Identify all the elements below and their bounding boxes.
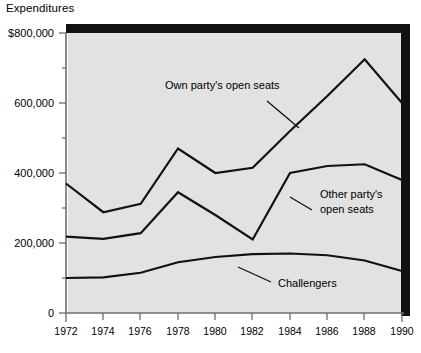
x-tick-label-1984: 1984: [278, 325, 302, 337]
x-tick-label-1974: 1974: [91, 325, 115, 337]
series-label-challengers: Challengers: [278, 277, 337, 289]
x-tick-label-1986: 1986: [315, 325, 339, 337]
x-axis-ticks: [66, 313, 402, 322]
series-label-other-party-open-seats-line1: Other party's: [320, 188, 383, 200]
plot-right-bar: [401, 24, 410, 316]
series-label-own-party-open-seats: Own party's open seats: [165, 79, 280, 91]
y-tick-label-0: 0: [48, 307, 54, 319]
x-tick-label-1982: 1982: [240, 325, 264, 337]
y-axis-ticks: [59, 33, 66, 313]
y-tick-label-800000: $800,000: [8, 27, 54, 39]
y-tick-label-200000: 200,000: [14, 237, 54, 249]
x-tick-label-1978: 1978: [166, 325, 190, 337]
expenditures-line-chart: 0 200,000 400,000 600,000 $800,000 1972 …: [0, 0, 421, 353]
chart-figure: Expenditures 0 200,000 400,000 600,000: [0, 0, 421, 353]
plot-area-background: [68, 33, 404, 313]
y-tick-label-400000: 400,000: [14, 167, 54, 179]
series-label-other-party-open-seats-line2: open seats: [320, 203, 374, 215]
x-tick-label-1976: 1976: [128, 325, 152, 337]
x-tick-label-1988: 1988: [352, 325, 376, 337]
plot-top-bar: [66, 24, 410, 33]
x-tick-label-1980: 1980: [203, 325, 227, 337]
y-tick-label-600000: 600,000: [14, 97, 54, 109]
x-tick-label-1972: 1972: [54, 325, 78, 337]
x-tick-label-1990: 1990: [390, 325, 414, 337]
